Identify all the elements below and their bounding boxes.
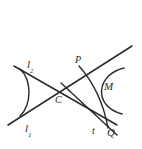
label-point-p: P — [75, 55, 81, 65]
arc-through-PQ — [79, 66, 108, 128]
label-point-q: Q — [107, 127, 115, 138]
label-line-l2: l2 — [27, 59, 33, 73]
label-line-l1-subscript: 1 — [28, 131, 31, 138]
label-point-c: C — [55, 95, 62, 105]
label-line-l1: l1 — [25, 123, 31, 137]
figure-canvas — [0, 0, 142, 149]
label-line-l2-subscript: 2 — [30, 67, 33, 74]
arc-left — [20, 69, 29, 116]
label-tangent-t: t — [92, 126, 95, 136]
geometry-figure: l2 l1 C P M t Q — [0, 0, 142, 149]
label-point-m: M — [104, 81, 113, 92]
